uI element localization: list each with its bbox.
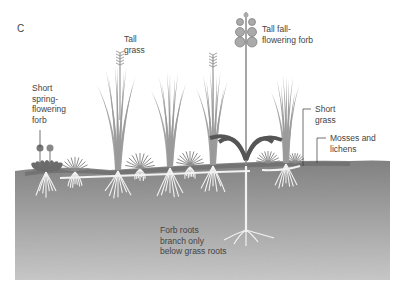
tall-grass-clump	[151, 72, 186, 167]
label-short-grass: Short grass	[315, 104, 336, 125]
seed-spikelet	[213, 59, 217, 61]
leader-mosses	[317, 138, 326, 163]
leader-short-grass	[303, 109, 311, 166]
seed-spikelet	[209, 53, 213, 55]
short-grass-tuft	[256, 151, 280, 163]
short-grass-tuft	[61, 157, 89, 171]
forb-flower	[248, 28, 257, 37]
forb-flower	[247, 37, 257, 47]
short-grass-tuft	[125, 153, 155, 168]
seed-spikelet	[213, 62, 217, 64]
seed-spikelet	[213, 65, 217, 67]
forb-bud	[244, 13, 249, 18]
short-grass-clump	[271, 75, 299, 163]
tall-grass-clump	[196, 70, 228, 165]
label-forb-roots: Forb roots branch only below grass roots	[160, 225, 227, 257]
label-tall-grass: Tall grass	[124, 34, 145, 55]
seed-spikelet	[213, 56, 217, 58]
prairie-diagram: C Short spring- flowering forb Tall gras…	[0, 0, 401, 289]
panel-letter: C	[17, 23, 24, 34]
label-short-spring-flowering-forb: Short spring- flowering forb	[32, 83, 66, 125]
tall-grass-clump	[97, 65, 136, 170]
short-spring-flowering-forb	[30, 145, 64, 173]
forb-flower	[47, 145, 54, 152]
forb-flower	[236, 28, 245, 37]
label-tall-fall-flowering-forb: Tall fall- flowering forb	[262, 24, 313, 45]
forb-flower	[249, 19, 256, 26]
forb-flower	[237, 19, 244, 26]
short-grass-tuft	[176, 151, 204, 165]
seed-spikelet	[213, 53, 217, 55]
label-mosses-and-lichens: Mosses and lichens	[330, 133, 376, 154]
forb-flower	[235, 37, 245, 47]
seed-spikelet	[116, 51, 120, 53]
